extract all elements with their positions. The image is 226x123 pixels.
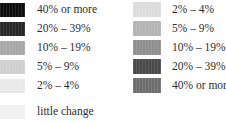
legend-item: 40% or more: [0, 0, 113, 19]
legend-item-label: 2% – 4%: [37, 79, 79, 92]
legend-item: 20% – 39%: [0, 19, 113, 38]
legend-swatch: [133, 78, 161, 93]
legend-item-label: 20% – 39%: [172, 60, 226, 73]
legend-item-label: 20% – 39%: [37, 22, 91, 35]
legend-item-label: 2% – 4%: [172, 3, 214, 16]
legend-swatch: [133, 59, 161, 74]
legend-item: 20% – 39%: [133, 57, 226, 76]
legend-item: 2% – 4%: [0, 76, 113, 95]
legend-item: 2% – 4%: [133, 0, 226, 19]
legend-swatch: [0, 3, 25, 17]
legend-swatch: [0, 60, 25, 74]
legend-swatch: [133, 2, 161, 17]
legend-swatch: [133, 40, 161, 55]
legend-swatch: [0, 105, 25, 119]
legend-column-right: 2% – 4% 5% – 9% 10% – 19% 20% – 39% 40% …: [133, 0, 226, 95]
legend-item: 5% – 9%: [0, 57, 113, 76]
map-legend: 40% or more 20% – 39% 10% – 19% 5% – 9% …: [0, 0, 226, 123]
legend-swatch: [0, 79, 25, 93]
legend-item-label: 5% – 9%: [172, 22, 214, 35]
legend-item-label: 10% – 19%: [172, 41, 226, 54]
legend-item-label: 40% or more: [172, 79, 226, 92]
legend-item-label: 40% or more: [37, 3, 97, 16]
legend-item: 10% – 19%: [133, 38, 226, 57]
legend-item-label: 10% – 19%: [37, 41, 91, 54]
legend-swatch: [0, 41, 25, 55]
legend-group-right-classes: 2% – 4% 5% – 9% 10% – 19% 20% – 39% 40% …: [133, 0, 226, 95]
legend-item: 10% – 19%: [0, 38, 113, 57]
legend-item: 40% or more: [133, 76, 226, 95]
legend-swatch: [133, 21, 161, 36]
legend-column-left: 40% or more 20% – 39% 10% – 19% 5% – 9% …: [0, 0, 113, 121]
legend-item-little-change: little change: [0, 102, 113, 121]
legend-item-label: 5% – 9%: [37, 60, 79, 73]
legend-group-left-classes: 40% or more 20% – 39% 10% – 19% 5% – 9% …: [0, 0, 113, 121]
legend-item-label: little change: [37, 105, 94, 118]
legend-item: 5% – 9%: [133, 19, 226, 38]
legend-swatch: [0, 22, 25, 36]
